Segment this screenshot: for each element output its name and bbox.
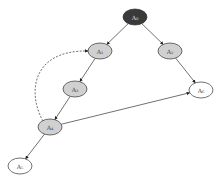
edge-A1-A3 [80,58,95,81]
node-label: A₃ [71,86,79,93]
edge-A0-A2 [142,24,163,45]
node-label: A₂ [166,48,174,55]
node-A5: A₅ [8,158,32,174]
edge-A2-A6 [176,58,196,83]
dag-diagram: A₀A₁A₂A₃A₄A₆A₅ [0,0,223,184]
node-label: A₆ [197,87,205,94]
edge-A4-A5 [25,134,44,159]
node-label: A₄ [46,124,54,131]
node-A6: A₆ [189,82,213,98]
node-A0: A₀ [123,9,147,25]
edge-A4-A6 [61,93,189,124]
nodes-layer: A₀A₁A₂A₃A₄A₆A₅ [8,9,213,174]
node-label: A₁ [96,48,104,55]
node-label: A₅ [16,163,24,170]
node-A1: A₁ [88,43,112,59]
node-A3: A₃ [63,81,87,97]
node-label: A₀ [131,14,139,21]
node-A4: A₄ [38,119,62,135]
edge-A0-A1 [107,24,128,45]
edge-A3-A4 [55,96,70,119]
node-A2: A₂ [158,43,182,59]
